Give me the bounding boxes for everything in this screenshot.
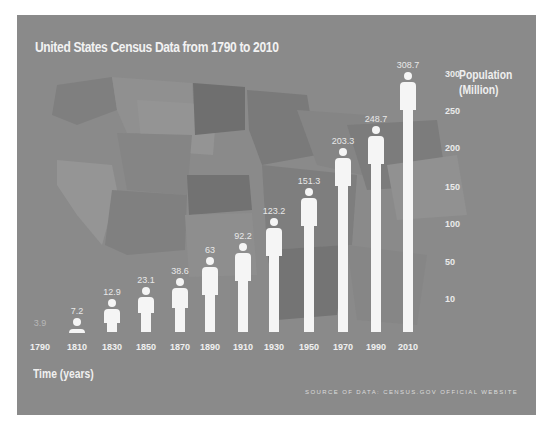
figure-shoulders [266, 228, 282, 256]
figure-head [339, 148, 347, 156]
x-tick-label: 1930 [257, 342, 291, 352]
x-tick-label: 1990 [359, 342, 393, 352]
figure-legs [175, 308, 185, 332]
x-tick-label: 1970 [326, 342, 360, 352]
figure-head [142, 287, 150, 295]
value-label: 38.6 [160, 266, 200, 276]
figure-shoulders [235, 253, 251, 281]
figure-head [305, 188, 313, 196]
figure-shoulders [335, 158, 351, 186]
y-tick-label: 50 [445, 257, 475, 267]
figure-shoulders [104, 309, 120, 323]
figure-head [372, 126, 380, 134]
figure-head [206, 257, 214, 265]
figure-legs [403, 110, 413, 332]
y-tick-label: 150 [445, 182, 475, 192]
figure-legs [304, 226, 314, 332]
figure-shoulders [368, 136, 384, 164]
value-label: 151.3 [289, 176, 329, 186]
value-label: 248.7 [356, 114, 396, 124]
value-label: 12.9 [92, 287, 132, 297]
figure-head [176, 278, 184, 286]
figure-head [239, 243, 247, 251]
figure-shoulders [400, 82, 416, 110]
figure-head [73, 318, 81, 326]
figure-legs [269, 256, 279, 332]
figure-shoulders [172, 288, 188, 308]
source-note: Source of Data: Census.gov official webs… [305, 389, 518, 395]
figure-head [108, 299, 116, 307]
x-tick-label: 1810 [60, 342, 94, 352]
x-tick-label: 1850 [129, 342, 163, 352]
figure-legs [141, 313, 151, 332]
value-label: 63 [190, 245, 230, 255]
figure-shoulders [301, 198, 317, 226]
value-label: 123.2 [254, 206, 294, 216]
x-tick-label: 1890 [193, 342, 227, 352]
figure-shoulders [202, 267, 218, 295]
figure-legs [107, 323, 117, 332]
figure-head [404, 72, 412, 80]
x-tick-label: 1870 [163, 342, 197, 352]
y-tick-label: 200 [445, 143, 475, 153]
value-label: 3.9 [20, 318, 60, 328]
value-label: 308.7 [388, 60, 428, 70]
x-tick-label: 1830 [95, 342, 129, 352]
x-tick-label: 1950 [292, 342, 326, 352]
y-tick-label: 300 [445, 69, 475, 79]
chart-title: United States Census Data from 1790 to 2… [35, 39, 279, 55]
x-axis-label: Time (years) [33, 367, 94, 381]
figure-legs [205, 295, 215, 332]
figure-head [270, 218, 278, 226]
value-label: 7.2 [57, 306, 97, 316]
x-tick-label: 1910 [226, 342, 260, 352]
y-axis-label-line-2: (Million) [459, 83, 512, 98]
y-tick-label: 250 [445, 106, 475, 116]
y-tick-label: 100 [445, 219, 475, 229]
y-tick-label: 10 [445, 294, 475, 304]
value-label: 23.1 [126, 275, 166, 285]
figure-legs [371, 164, 381, 332]
figure-shoulders [138, 297, 154, 313]
figure-shoulders [69, 329, 85, 333]
figure-legs [238, 281, 248, 332]
value-label: 203.3 [323, 136, 363, 146]
chart-panel: United States Census Data from 1790 to 2… [17, 15, 536, 415]
figure-legs [338, 186, 348, 332]
value-label: 92.2 [223, 231, 263, 241]
x-tick-label: 2010 [391, 342, 425, 352]
x-tick-label: 1790 [23, 342, 57, 352]
